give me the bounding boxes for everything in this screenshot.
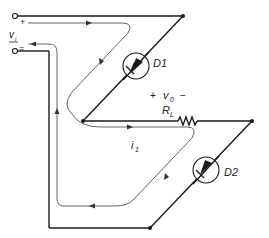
current-arrow-bottom bbox=[89, 204, 95, 209]
output-v-subscript: 0 bbox=[170, 96, 174, 103]
output-minus: − bbox=[180, 90, 186, 101]
d1-label: D1 bbox=[153, 57, 167, 69]
input-plus: + bbox=[20, 17, 25, 27]
diode-d2 bbox=[193, 156, 219, 184]
current-arrow-top bbox=[86, 21, 92, 26]
circuit-wires bbox=[18, 16, 253, 228]
input-terminal-bottom bbox=[13, 49, 18, 54]
diode-d1 bbox=[123, 52, 149, 80]
circuit-diagram: + v i = D1 D2 R L + v 0 − i 1 bbox=[0, 0, 269, 238]
output-v-label: v bbox=[163, 89, 170, 101]
current-arrow-exit bbox=[30, 42, 36, 47]
current-arrow-mid bbox=[127, 125, 133, 130]
current-i-label: i bbox=[131, 139, 134, 151]
component-labels: D1 D2 R L bbox=[153, 57, 238, 178]
current-arrow-diag2 bbox=[164, 173, 169, 180]
circuit-nodes bbox=[81, 14, 254, 230]
current-arrow-left bbox=[55, 108, 60, 114]
output-plus: + bbox=[150, 90, 156, 101]
d2-label: D2 bbox=[224, 166, 238, 178]
input-v-subscript: i bbox=[15, 36, 17, 42]
rl-subscript: L bbox=[170, 111, 174, 118]
input-minus: = bbox=[19, 43, 24, 53]
input-labels: + v i = bbox=[9, 17, 25, 53]
current-i-subscript: 1 bbox=[135, 146, 139, 153]
rl-label: R bbox=[162, 104, 170, 116]
current-labels: i 1 bbox=[131, 139, 139, 153]
input-terminal-top bbox=[13, 14, 18, 19]
output-labels: + v 0 − bbox=[150, 89, 186, 103]
